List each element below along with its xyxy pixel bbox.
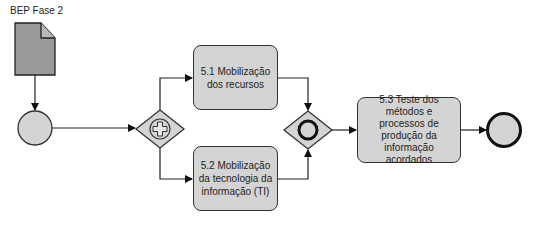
task-5-2[interactable]: 5.2 Mobilização da tecnologia da informa… xyxy=(193,146,278,211)
end-event[interactable] xyxy=(488,114,521,147)
task-label: 5.1 Mobilização dos recursos xyxy=(198,65,273,91)
data-object-label: BEP Fase 2 xyxy=(10,5,63,16)
flow-5-2-to-merge xyxy=(278,150,308,179)
task-5-1[interactable]: 5.1 Mobilização dos recursos xyxy=(193,45,278,110)
task-5-3[interactable]: 5.3 Teste dos métodos e processos de pro… xyxy=(357,97,461,163)
task-label: 5.3 Teste dos métodos e processos de pro… xyxy=(362,94,456,166)
flow-5-1-to-merge xyxy=(278,78,308,110)
parallel-gateway-split[interactable] xyxy=(136,110,184,148)
flow-split-to-5-1 xyxy=(160,78,192,110)
flow-split-to-5-2 xyxy=(160,148,192,179)
inclusive-gateway-merge[interactable] xyxy=(284,111,332,149)
start-event[interactable] xyxy=(18,111,52,145)
task-label: 5.2 Mobilização da tecnologia da informa… xyxy=(198,159,273,198)
data-object-icon[interactable] xyxy=(15,23,55,75)
